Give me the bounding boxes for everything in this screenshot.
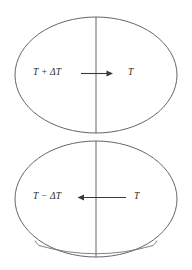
figure-container: T + ΔT T T − ΔT T xyxy=(0,0,192,270)
bottom-left-temperature-label: T − ΔT xyxy=(33,192,61,202)
top-right-temperature-label: T xyxy=(128,68,133,78)
bottom-right-temperature-label: T xyxy=(134,192,139,202)
diagram-canvas xyxy=(0,0,192,270)
top-left-temperature-label: T + ΔT xyxy=(33,68,61,78)
